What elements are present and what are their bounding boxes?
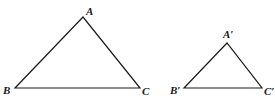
vertex-label-b-prime: B′ bbox=[169, 84, 180, 96]
triangle-a-prime-shape bbox=[184, 43, 262, 88]
vertex-label-c: C bbox=[142, 85, 150, 97]
vertex-label-b: B bbox=[2, 84, 10, 96]
similar-triangles-diagram: A B C A′ B′ C′ bbox=[0, 0, 275, 100]
vertex-label-a: A bbox=[85, 5, 93, 17]
vertex-label-a-prime: A′ bbox=[222, 28, 233, 40]
triangle-a-prime-b-prime-c-prime: A′ B′ C′ bbox=[169, 28, 274, 97]
vertex-label-c-prime: C′ bbox=[264, 85, 274, 97]
triangle-abc: A B C bbox=[2, 5, 150, 97]
triangle-abc-shape bbox=[15, 17, 140, 88]
